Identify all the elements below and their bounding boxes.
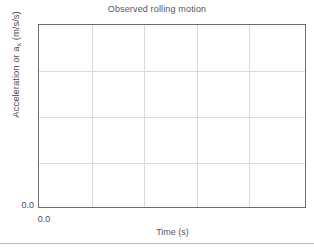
plot-area: [38, 24, 306, 208]
chart-figure: Observed rolling motion Acceleration or …: [0, 0, 314, 252]
gridline-vertical: [197, 25, 198, 207]
gridline-vertical: [249, 25, 250, 207]
x-axis-tick-label-origin: 0.0: [28, 214, 60, 224]
gridline-horizontal: [39, 71, 305, 72]
gridline-horizontal: [39, 117, 305, 118]
gridline-horizontal: [39, 163, 305, 164]
y-axis-label-prefix: Acceleration or a: [10, 46, 21, 117]
gridline-vertical: [144, 25, 145, 207]
gridline-vertical: [92, 25, 93, 207]
page-divider-rule: [0, 243, 314, 244]
x-axis-label: Time (s): [120, 227, 225, 237]
chart-title: Observed rolling motion: [0, 4, 314, 14]
gridlines: [39, 25, 305, 207]
y-axis-label-subscript: x: [15, 43, 22, 47]
y-axis-tick-label-origin: 0.0: [4, 200, 34, 210]
y-axis-label: Acceleration or ax (m/s/s): [10, 0, 23, 144]
y-axis-label-suffix: (m/s/s): [10, 11, 21, 43]
